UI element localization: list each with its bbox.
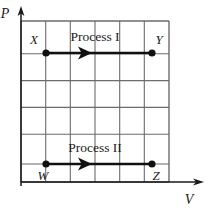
point-y-label: Y: [155, 32, 164, 47]
point-w-label: W: [38, 168, 50, 183]
point-x-label: X: [29, 32, 39, 47]
process-1-label: Process I: [70, 29, 120, 44]
p-axis-label: P: [0, 6, 10, 21]
point-y-marker: [148, 49, 155, 56]
point-w-marker: [42, 160, 49, 167]
p-axis: [18, 6, 25, 186]
point-x-marker: [42, 49, 49, 56]
process-2-label: Process II: [68, 140, 122, 155]
v-axis: [21, 178, 204, 185]
process-1-group: [46, 47, 152, 60]
grid: [21, 21, 169, 182]
point-z-marker: [148, 160, 155, 167]
pv-diagram-figure: P V Process I Process II X Y W Z: [0, 0, 217, 214]
point-z-label: Z: [152, 168, 160, 183]
process-2-group: [46, 158, 152, 171]
v-axis-label: V: [185, 192, 195, 207]
pv-diagram-canvas: P V Process I Process II X Y W Z: [0, 0, 217, 214]
